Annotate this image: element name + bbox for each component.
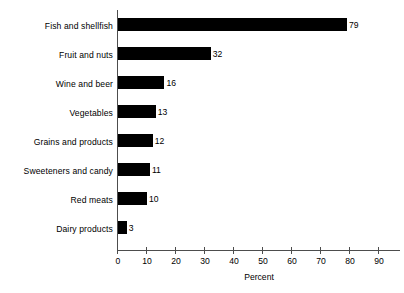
x-axis-tick-label: 10 xyxy=(135,256,159,266)
category-label: Fruit and nuts xyxy=(0,50,113,60)
x-axis-tick xyxy=(262,247,263,254)
x-axis-tick xyxy=(320,247,321,254)
x-axis-tick xyxy=(378,247,379,254)
category-label: Dairy products xyxy=(0,224,113,234)
x-axis-tick xyxy=(349,247,350,254)
x-axis-tick-label: 70 xyxy=(309,256,333,266)
x-axis-tick xyxy=(233,247,234,254)
x-axis-tick-label: 80 xyxy=(338,256,362,266)
category-label: Vegetables xyxy=(0,108,113,118)
bar-value-label: 13 xyxy=(158,107,168,117)
x-axis-tick xyxy=(175,247,176,254)
x-axis-tick-label: 60 xyxy=(280,256,304,266)
x-axis-tick-label: 20 xyxy=(164,256,188,266)
category-label: Sweeteners and candy xyxy=(0,166,113,176)
bar-value-label: 16 xyxy=(166,78,176,88)
bar-value-label: 12 xyxy=(155,136,165,146)
x-axis-tick-label: 0 xyxy=(106,256,130,266)
bar xyxy=(118,163,150,176)
category-label: Red meats xyxy=(0,195,113,205)
y-axis-line xyxy=(117,10,118,251)
bar-value-label: 10 xyxy=(149,194,159,204)
bar-chart: Fish and shellfish Fruit and nuts Wine a… xyxy=(0,0,404,293)
bar-value-label: 32 xyxy=(213,49,223,59)
bar xyxy=(118,192,147,205)
bar xyxy=(118,76,164,89)
bar-value-label: 79 xyxy=(349,20,359,30)
category-label: Grains and products xyxy=(0,137,113,147)
category-label: Fish and shellfish xyxy=(0,21,113,31)
x-axis-line xyxy=(117,250,400,251)
bar xyxy=(118,47,211,60)
x-axis-tick xyxy=(291,247,292,254)
x-axis-tick xyxy=(204,247,205,254)
bar xyxy=(118,105,156,118)
bar xyxy=(118,221,127,234)
bar xyxy=(118,134,153,147)
x-axis-tick xyxy=(117,247,118,254)
category-label: Wine and beer xyxy=(0,79,113,89)
x-axis-tick-label: 90 xyxy=(367,256,391,266)
x-axis-title: Percent xyxy=(118,272,400,282)
x-axis-tick-label: 30 xyxy=(193,256,217,266)
bar xyxy=(118,18,347,31)
bar-value-label: 3 xyxy=(129,223,134,233)
x-axis-tick xyxy=(146,247,147,254)
bar-value-label: 11 xyxy=(152,165,161,175)
x-axis-tick-label: 40 xyxy=(222,256,246,266)
x-axis-tick-label: 50 xyxy=(251,256,275,266)
